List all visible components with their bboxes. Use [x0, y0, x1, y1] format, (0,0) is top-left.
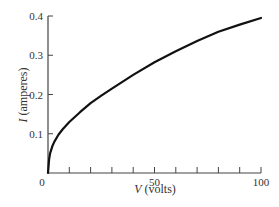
axes [48, 16, 261, 173]
x-tick-label: 100 [253, 176, 270, 188]
y-tick-label: 0.3 [29, 49, 43, 61]
x-axis-label: V (volts) [134, 182, 176, 196]
iv-chart: 0501000.10.20.30.4 V (volts) I (amperes) [0, 0, 279, 207]
x-axis-unit: (volts) [142, 182, 176, 196]
y-axis-label: I (amperes) [16, 68, 30, 124]
x-tick-label: 0 [39, 176, 45, 188]
y-tick-label: 0.1 [29, 128, 43, 140]
y-tick-label: 0.2 [29, 89, 43, 101]
tick-labels: 0501000.10.20.30.4 [29, 10, 270, 188]
data-curve [48, 18, 261, 173]
y-axis-unit: (amperes) [16, 68, 30, 119]
y-tick-label: 0.4 [29, 10, 43, 22]
ticks [48, 16, 261, 173]
